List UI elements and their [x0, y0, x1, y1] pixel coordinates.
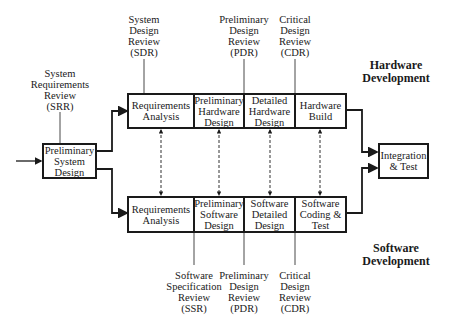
hardware-development-title: Hardware Development: [346, 59, 446, 85]
sw-cdr-review-label: Critical Design Review (CDR): [255, 270, 335, 314]
sw-requirements-analysis-box: Requirements Analysis: [127, 196, 195, 233]
preliminary-system-design-box: Preliminary System Design: [42, 143, 97, 179]
preliminary-hardware-design-box: Preliminary Hardware Design: [194, 93, 245, 129]
hw-cdr-review-label: Critical Design Review (CDR): [255, 14, 335, 58]
software-development-title: Software Development: [346, 242, 446, 268]
srr-review-label: System Requirements Review (SRR): [20, 68, 100, 112]
detailed-hardware-design-box: Detailed Hardware Design: [244, 93, 296, 129]
software-coding-test-box: Software Coding & Test: [295, 196, 347, 233]
hw-requirements-analysis-box: Requirements Analysis: [127, 93, 195, 129]
integration-test-box: Integration & Test: [378, 143, 429, 179]
hardware-build-box: Hardware Build: [295, 93, 347, 129]
preliminary-software-design-box: Preliminary Software Design: [194, 196, 245, 233]
software-detailed-design-box: Software Detailed Design: [244, 196, 296, 233]
sdr-review-label: System Design Review (SDR): [104, 14, 184, 58]
